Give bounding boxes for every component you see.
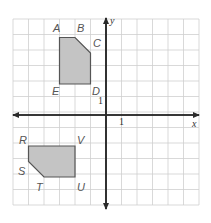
x-tick-1: 1	[119, 116, 124, 127]
vertex-label-u: U	[77, 181, 85, 193]
x-axis-label: x	[191, 118, 197, 129]
polygon-rstuv	[29, 146, 76, 177]
vertex-label-d: D	[92, 85, 100, 97]
vertex-label-t: T	[36, 181, 44, 193]
vertex-label-c: C	[93, 37, 101, 49]
vertex-label-s: S	[18, 165, 26, 177]
coordinate-plane: y x 1 1 A B C D E R S T V U	[0, 0, 211, 223]
y-axis-label: y	[109, 15, 115, 26]
polygon-abcde	[60, 38, 91, 85]
vertex-label-b: B	[77, 22, 84, 34]
vertex-label-v: V	[77, 134, 86, 146]
vertex-label-e: E	[52, 85, 60, 97]
vertex-label-a: A	[52, 22, 60, 34]
vertex-label-r: R	[19, 134, 27, 146]
